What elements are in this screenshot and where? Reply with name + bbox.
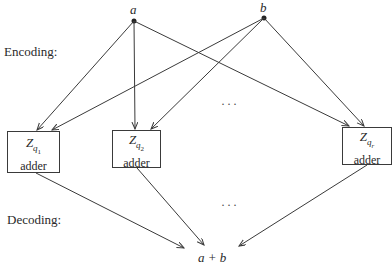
adder-2-label: adder [113,156,160,171]
arrow-a-to-adder2 [134,21,135,129]
arrow-b-to-adder2 [151,18,264,129]
adder-box-r: Zqr adder [342,127,392,165]
arrow-b-to-adderr [264,18,364,126]
encoding-label: Encoding: [4,44,57,60]
adder-2-modulus: Zq2 [113,132,160,156]
arrow-adderr-to-sum [239,165,367,246]
adder-r-modulus: Zqr [343,129,391,153]
sum-output-label: a + b [198,250,226,266]
encoding-ellipsis: ··· [221,97,239,112]
arrow-a-to-adder1 [37,21,134,130]
adder-1-modulus: Zq1 [8,135,59,159]
arrow-b-to-adder1 [52,18,264,130]
input-b-label: b [260,0,267,16]
decoding-ellipsis: ··· [221,198,239,213]
coding-diagram: a b Encoding: Decoding: Zq1 adder Zq2 ad… [0,0,392,268]
arrow-a-to-adderr [134,21,349,126]
adder-box-2: Zq2 adder [112,130,161,168]
input-a-label: a [130,2,137,18]
decoding-label: Decoding: [7,212,61,228]
adder-r-label: adder [343,153,391,168]
arrow-adder2-to-sum [137,168,204,245]
arrow-adder1-to-sum [36,173,184,248]
adder-box-1: Zq1 adder [7,131,60,173]
adder-1-label: adder [8,159,59,174]
